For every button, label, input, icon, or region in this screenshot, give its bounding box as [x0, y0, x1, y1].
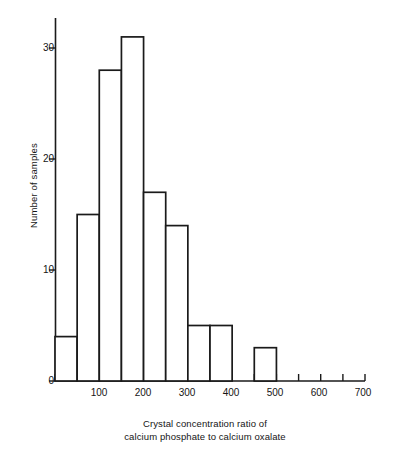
x-tick-label-600: 600: [299, 387, 339, 398]
plot-area: [0, 0, 410, 453]
y-axis-title: Number of samples: [28, 116, 39, 256]
histogram-bar: [254, 348, 276, 381]
histogram-bar: [144, 192, 166, 381]
histogram-bar: [210, 326, 232, 382]
x-axis-title-line-2: calcium phosphate to calcium oxalate: [40, 431, 370, 444]
histogram-bar: [55, 337, 77, 381]
x-tick-label-300: 300: [167, 387, 207, 398]
histogram-figure: Number of samples 0 10 20 30 100 200 300…: [0, 0, 410, 453]
y-tick-label-0: 0: [28, 375, 54, 386]
x-tick-label-500: 500: [255, 387, 295, 398]
histogram-bar: [99, 70, 121, 381]
x-tick-label-700: 700: [343, 387, 383, 398]
histogram-bar: [188, 326, 210, 382]
histogram-bar: [166, 226, 188, 381]
histogram-bars: [55, 37, 276, 381]
y-tick-label-20: 20: [28, 153, 54, 164]
x-tick-label-400: 400: [211, 387, 251, 398]
x-tick-label-200: 200: [123, 387, 163, 398]
histogram-bar: [77, 215, 99, 382]
y-tick-label-10: 10: [28, 264, 54, 275]
x-tick-label-100: 100: [79, 387, 119, 398]
y-tick-label-30: 30: [28, 42, 54, 53]
x-axis-title-line-1: Crystal concentration ratio of: [40, 418, 370, 431]
y-tick-marks: [49, 48, 55, 381]
histogram-bar: [121, 37, 143, 381]
x-axis-title: Crystal concentration ratio ofcalcium ph…: [40, 418, 370, 443]
